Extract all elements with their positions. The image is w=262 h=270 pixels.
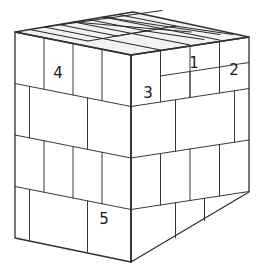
- block-label-4: 4: [53, 64, 63, 82]
- block-label-3: 3: [143, 84, 153, 102]
- figure-container: 1 2 3 4 5: [0, 0, 262, 270]
- block-label-2: 2: [229, 61, 239, 79]
- face-fills: [15, 12, 249, 262]
- cube-diagram: 1 2 3 4 5: [0, 0, 262, 270]
- block-label-1: 1: [189, 54, 199, 72]
- block-label-5: 5: [99, 210, 109, 228]
